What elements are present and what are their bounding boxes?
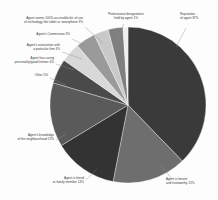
pie-chart-canvas: [0, 0, 218, 200]
leader-line-reputation: [176, 28, 186, 47]
pie-chart-figure: Reputation of agent 37% Agent is honest …: [0, 0, 218, 200]
pie-slice-group: [50, 27, 206, 183]
